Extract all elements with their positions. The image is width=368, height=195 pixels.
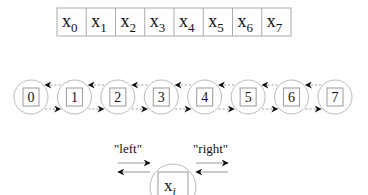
array-cell: x6: [238, 11, 254, 35]
list-node-label: 2: [114, 90, 121, 105]
array-cell-base: x: [91, 11, 100, 31]
list-node-label: 6: [288, 90, 295, 105]
array-cell-sub: 4: [188, 20, 195, 35]
array-cell: x7: [267, 11, 283, 35]
array-cell-base: x: [267, 11, 276, 31]
array-cell-sub: 2: [130, 20, 137, 35]
array: x0x1x2x3x4x5x6x7: [57, 8, 291, 36]
list-node-label: 1: [71, 90, 78, 105]
array-cell-base: x: [238, 11, 247, 31]
array-cell-base: x: [208, 11, 217, 31]
array-cell: x3: [150, 11, 166, 35]
array-cell-sub: 0: [71, 20, 78, 35]
legend-left-label: "left": [114, 141, 142, 156]
list-node-label: 4: [201, 90, 208, 105]
list-node: 5: [231, 80, 265, 114]
array-cell: x0: [62, 11, 78, 35]
list-node: 3: [144, 80, 178, 114]
linked-list-diagram: x0x1x2x3x4x5x6x7 01234567 xi "left" "rig…: [0, 0, 368, 195]
array-cell-base: x: [121, 11, 130, 31]
list-node-label: 7: [332, 90, 339, 105]
legend-right-label: "right": [193, 141, 228, 156]
list-node-label: 0: [28, 90, 35, 105]
array-cell: x2: [121, 11, 137, 35]
array-cell-sub: 7: [276, 20, 283, 35]
array-cell-sub: 1: [100, 20, 107, 35]
list-node: 0: [14, 80, 48, 114]
list-node: 7: [318, 80, 352, 114]
list-node: 1: [57, 80, 91, 114]
list-node-label: 5: [245, 90, 252, 105]
legend-node: xi "left" "right": [114, 141, 228, 195]
array-cell: x5: [208, 11, 224, 35]
array-cell-sub: 6: [247, 20, 254, 35]
doubly-linked-list: 01234567: [14, 80, 352, 114]
list-node: 2: [101, 80, 135, 114]
array-cell-base: x: [62, 11, 71, 31]
list-node-label: 3: [158, 90, 165, 105]
array-cell-sub: 3: [159, 20, 166, 35]
array-cell-base: x: [179, 11, 188, 31]
legend-node-label: xi: [164, 176, 176, 195]
array-cell: x4: [179, 11, 195, 35]
array-cell: x1: [91, 11, 107, 35]
list-node: 4: [188, 80, 222, 114]
list-node: 6: [275, 80, 309, 114]
array-cell-sub: 5: [217, 20, 224, 35]
array-cell-base: x: [150, 11, 159, 31]
